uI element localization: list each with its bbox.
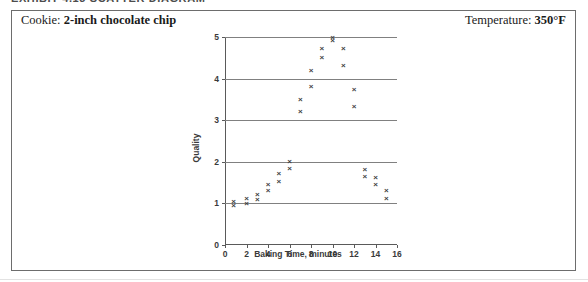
y-tick-mark-2	[222, 162, 225, 163]
x-tick-label-6: 6	[283, 249, 297, 259]
x-tick-label-10: 10	[326, 249, 340, 259]
y-axis-title: Quality	[191, 133, 201, 162]
x-tick-label-4: 4	[261, 249, 275, 259]
exhibit-caption-text: EXHIBIT 4.13 SCATTER DIAGRAM	[11, 0, 205, 4]
x-tick-label-16: 16	[390, 249, 404, 259]
x-tick-label-2: 2	[240, 249, 254, 259]
x-tick-mark-14	[376, 245, 377, 248]
x-tick-label-14: 14	[369, 249, 383, 259]
y-tick-mark-3	[222, 120, 225, 121]
data-point: ×	[340, 61, 347, 70]
x-tick-mark-4	[268, 245, 269, 248]
y-tick-mark-4	[222, 79, 225, 80]
temperature-label-value: 350°F	[535, 13, 566, 27]
data-point: ×	[254, 195, 261, 204]
data-point: ×	[361, 172, 368, 181]
data-point: ×	[383, 194, 390, 203]
y-tick-label-0: 0	[203, 240, 219, 250]
data-point: ×	[243, 199, 250, 208]
data-point: ×	[308, 82, 315, 91]
data-point: ×	[297, 107, 304, 116]
gridline-y-2	[225, 162, 397, 163]
data-point: ×	[230, 201, 237, 210]
data-point: ×	[308, 66, 315, 75]
y-tick-mark-1	[222, 203, 225, 204]
cookie-label-prefix: Cookie:	[21, 13, 61, 27]
x-tick-label-8: 8	[304, 249, 318, 259]
data-point: ×	[372, 180, 379, 189]
y-tick-mark-5	[222, 37, 225, 38]
x-tick-mark-0	[225, 245, 226, 248]
data-point: ×	[265, 186, 272, 195]
cookie-label-value: 2-inch chocolate chip	[64, 13, 177, 27]
x-tick-mark-6	[290, 245, 291, 248]
x-tick-mark-10	[333, 245, 334, 248]
figure-frame: Cookie: 2-inch chocolate chip Temperatur…	[11, 10, 576, 271]
x-tick-label-12: 12	[347, 249, 361, 259]
scatter-chart: Quality Baking Time, minutes 01234502468…	[188, 25, 408, 270]
y-tick-label-1: 1	[203, 198, 219, 208]
y-axis-line	[225, 37, 226, 245]
temperature-label: Temperature: 350°F	[465, 13, 566, 28]
page-divider	[0, 279, 588, 280]
temperature-label-prefix: Temperature:	[465, 13, 531, 27]
data-point: ×	[351, 102, 358, 111]
x-tick-mark-2	[247, 245, 248, 248]
y-tick-label-5: 5	[203, 32, 219, 42]
y-tick-label-3: 3	[203, 115, 219, 125]
x-tick-label-0: 0	[218, 249, 232, 259]
cookie-label: Cookie: 2-inch chocolate chip	[21, 13, 176, 28]
data-point: ×	[286, 164, 293, 173]
exhibit-caption-strip: EXHIBIT 4.13 SCATTER DIAGRAM	[0, 0, 588, 9]
data-point: ×	[329, 36, 336, 45]
data-point: ×	[275, 177, 282, 186]
data-point: ×	[318, 44, 325, 53]
gridline-y-1	[225, 203, 397, 204]
gridline-y-5	[225, 37, 397, 38]
data-point: ×	[297, 95, 304, 104]
data-point: ×	[340, 44, 347, 53]
data-point: ×	[318, 53, 325, 62]
data-point: ×	[351, 85, 358, 94]
x-tick-mark-12	[354, 245, 355, 248]
y-tick-label-2: 2	[203, 157, 219, 167]
gridline-y-3	[225, 120, 397, 121]
x-tick-mark-16	[397, 245, 398, 248]
plot-area: 0123450246810121416×××××××××××××××××××××…	[225, 37, 397, 245]
x-tick-mark-8	[311, 245, 312, 248]
gridline-y-4	[225, 79, 397, 80]
y-tick-label-4: 4	[203, 74, 219, 84]
